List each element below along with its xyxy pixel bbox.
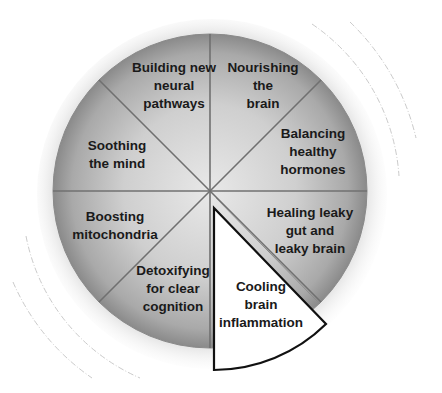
segment-label-building: Building new neural pathways [119, 59, 229, 113]
segment-label-soothing: Soothing the mind [72, 137, 162, 173]
segment-label-healing: Healing leaky gut and leaky brain [255, 204, 365, 258]
segment-label-boosting: Boosting mitochondria [60, 208, 170, 244]
brain-health-wheel-diagram: Building new neural pathways Nourishing … [0, 0, 442, 393]
segment-label-detoxifying: Detoxifying for clear cognition [128, 262, 218, 316]
segment-label-nourishing: Nourishing the brain [218, 59, 308, 113]
segment-label-cooling: Cooling brain inflammation [216, 278, 306, 332]
segment-label-balancing: Balancing healthy hormones [263, 125, 363, 179]
